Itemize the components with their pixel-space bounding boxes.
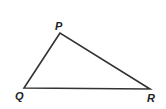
triangle-pqr — [24, 33, 150, 89]
triangle-diagram: P Q R — [0, 0, 166, 109]
vertex-label-q: Q — [15, 90, 24, 102]
vertex-label-r: R — [147, 92, 155, 104]
vertex-label-p: P — [55, 20, 63, 32]
